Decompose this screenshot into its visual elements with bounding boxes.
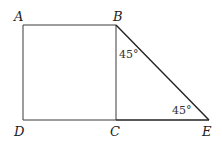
label-E: E (201, 124, 212, 139)
angle-label-E: 45° (172, 104, 192, 117)
label-B: B (112, 9, 123, 24)
label-D: D (13, 124, 25, 139)
segment-BE (116, 25, 209, 120)
label-A: A (13, 9, 23, 24)
geometry-diagram: A B D C E 45° 45° (0, 0, 222, 143)
square-ABCD (23, 25, 116, 120)
label-C: C (110, 124, 120, 139)
triangle-BCE (116, 25, 209, 120)
angle-label-B: 45° (119, 48, 139, 61)
